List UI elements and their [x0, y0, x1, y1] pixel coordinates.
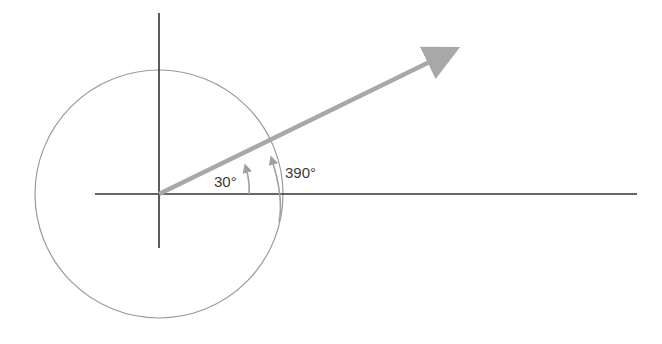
angle-390-label: 390°: [285, 164, 316, 181]
angle-30-label: 30°: [214, 173, 237, 190]
angle-390-arc-arrow: [272, 160, 280, 222]
angle-diagram: 30° 390°: [0, 0, 662, 344]
angle-30-arc-arrow: [246, 168, 249, 194]
